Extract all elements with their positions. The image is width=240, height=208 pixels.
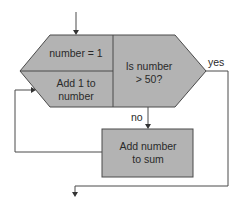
process-label-line2: to sum — [132, 153, 164, 165]
flowchart-canvas: number = 1 Add 1 to number Is number > 5… — [0, 0, 240, 208]
init-label: number = 1 — [49, 47, 103, 59]
yes-label: yes — [208, 56, 224, 68]
entry-arrow — [73, 12, 79, 35]
no-branch-connector — [145, 107, 151, 129]
increment-label-line1: Add 1 to — [56, 77, 95, 89]
decision-label-line2: > 50? — [136, 73, 163, 85]
process-label-line1: Add number — [119, 140, 177, 152]
no-label: no — [131, 111, 143, 123]
decision-label-line1: Is number — [126, 60, 173, 72]
increment-label-line2: number — [58, 90, 94, 102]
